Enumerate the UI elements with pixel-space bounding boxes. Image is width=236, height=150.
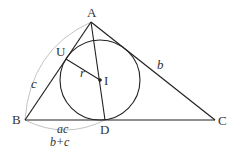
label-i: I	[104, 73, 108, 88]
label-b: B	[12, 112, 21, 127]
bd-denominator: b+c	[50, 135, 70, 149]
label-u: U	[56, 44, 66, 59]
diagram-canvas: A B C D I U b c r ac b+c	[0, 0, 236, 150]
incenter-dot	[98, 78, 102, 82]
label-c: C	[218, 113, 227, 128]
label-side-c: c	[31, 76, 37, 91]
geometry-diagram: A B C D I U b c r ac b+c	[0, 0, 236, 150]
label-side-b: b	[157, 57, 164, 72]
bisector-ad	[91, 22, 105, 120]
label-d: D	[100, 122, 109, 137]
bd-numerator: ac	[57, 122, 69, 136]
label-radius: r	[80, 65, 86, 80]
label-a: A	[87, 5, 97, 20]
side-ac	[91, 22, 215, 120]
